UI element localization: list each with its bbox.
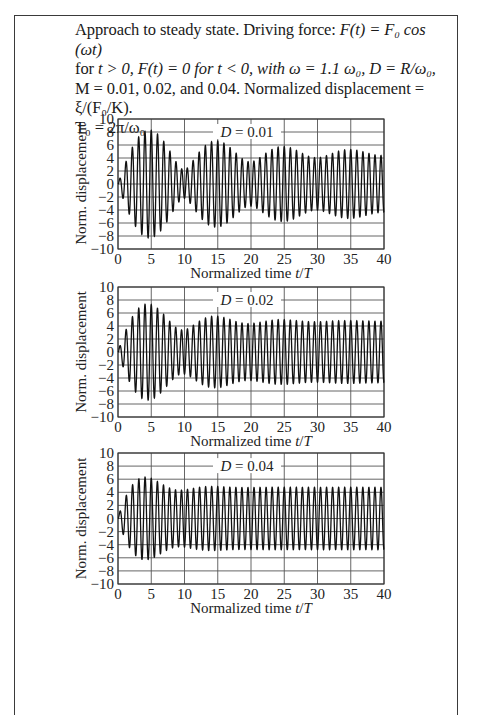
x-tick-label: 0 [114, 586, 122, 602]
x-tick-label: 35 [343, 419, 358, 435]
chart-title: D = 0.02 [219, 292, 273, 308]
x-tick-label: 40 [377, 251, 392, 267]
chart-title: D = 0.01 [219, 124, 273, 140]
y-tick-label: 10 [99, 279, 114, 295]
y-tick-label: 10 [99, 111, 114, 127]
x-tick-label: 40 [377, 419, 392, 435]
chart-3: D = 0.04−10−8−6−4−2024681005101520253035… [73, 445, 392, 616]
x-tick-label: 30 [310, 251, 325, 267]
x-tick-label: 0 [114, 419, 122, 435]
x-tick-label: 5 [148, 251, 156, 267]
chart-2: D = 0.02−10−8−6−4−2024681005101520253035… [73, 279, 392, 449]
x-axis-label: Normalized time t/T [190, 600, 313, 616]
x-tick-label: 40 [377, 586, 392, 602]
x-tick-label: 35 [343, 251, 358, 267]
y-tick-label: 10 [99, 445, 114, 461]
x-tick-label: 5 [148, 419, 156, 435]
x-axis-label: Normalized time t/T [190, 265, 313, 281]
y-axis-label: Norm. displacement [73, 122, 89, 244]
x-axis-label: Normalized time t/T [190, 433, 313, 449]
x-tick-label: 0 [114, 251, 122, 267]
x-tick-label: 5 [148, 586, 156, 602]
x-tick-label: 30 [310, 419, 325, 435]
chart-1: D = 0.01−10−8−6−4−2024681005101520253035… [73, 111, 392, 281]
x-tick-label: 30 [310, 586, 325, 602]
x-tick-label: 35 [343, 586, 358, 602]
y-axis-label: Norm. displacement [73, 290, 89, 412]
chart-title: D = 0.04 [219, 458, 274, 474]
y-axis-label: Norm. displacement [73, 457, 89, 579]
